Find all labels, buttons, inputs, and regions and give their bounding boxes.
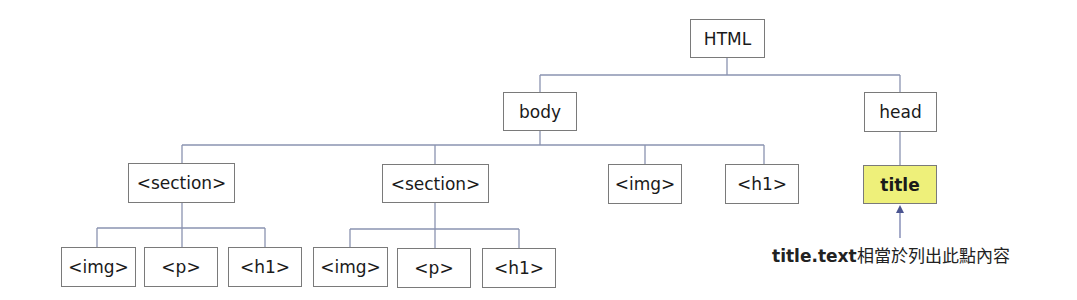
node-label: title [880,175,919,195]
node-label: <img> [615,174,676,194]
node-label: HTML [704,29,751,49]
annotation-note: title.text相當於列出此點內容 [772,242,1010,267]
node-label: <section> [391,174,481,194]
node-label: <section> [137,173,227,193]
node-body-h1: <h1> [725,164,799,204]
node-label: <p> [414,258,453,278]
node-label: head [879,102,921,122]
node-body: body [503,92,577,131]
node-label: <img> [320,257,381,277]
node-head: head [864,92,937,132]
annotation-text: 相當於列出此點內容 [857,246,1010,266]
node-label: body [519,102,561,122]
node-section-1: <section> [128,163,235,203]
node-section2-h1: <h1> [482,248,556,288]
node-title: title [863,165,937,204]
node-section2-p: <p> [397,248,471,288]
node-section1-p: <p> [144,247,218,287]
node-body-img: <img> [608,164,682,204]
node-label: <h1> [240,257,290,277]
annotation-arrow [896,205,904,238]
annotation-code: title.text [772,246,857,266]
node-section2-img: <img> [313,247,388,287]
node-html: HTML [690,19,765,58]
node-section1-img: <img> [61,247,136,287]
node-label: <img> [68,257,129,277]
node-label: <h1> [737,174,787,194]
node-label: <h1> [494,258,544,278]
node-section-2: <section> [382,164,489,203]
node-section1-h1: <h1> [228,247,302,287]
node-label: <p> [161,257,200,277]
